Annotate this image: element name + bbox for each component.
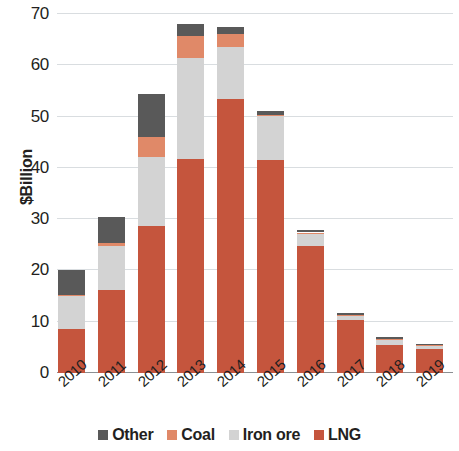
- chart-legend: OtherCoalIron oreLNG: [0, 427, 459, 443]
- y-axis-tick-label: 70: [3, 5, 49, 22]
- legend-swatch-lng: [314, 430, 324, 440]
- legend-item[interactable]: LNG: [314, 427, 361, 443]
- bar-segment[interactable]: [58, 296, 85, 330]
- legend-item[interactable]: Other: [98, 427, 153, 443]
- legend-label: Iron ore: [243, 427, 300, 443]
- y-axis-tick-label: 60: [3, 56, 49, 73]
- bar-segment[interactable]: [337, 313, 364, 315]
- bar-segment[interactable]: [337, 315, 364, 320]
- bar-segment[interactable]: [98, 246, 125, 290]
- bar-segment[interactable]: [376, 337, 403, 339]
- plot-area: 010203040506070: [57, 14, 453, 373]
- bar-segment[interactable]: [297, 234, 324, 246]
- stacked-bar-chart: $Billion 010203040506070 201020112012201…: [0, 0, 459, 451]
- bars-layer: [57, 14, 453, 373]
- bar-segment[interactable]: [217, 34, 244, 47]
- bar-segment[interactable]: [257, 111, 284, 115]
- bar-segment[interactable]: [98, 243, 125, 247]
- y-axis-tick-label: 40: [3, 158, 49, 175]
- legend-label: LNG: [328, 427, 361, 443]
- y-axis-tick-label: 30: [3, 210, 49, 227]
- x-axis-tick-labels: 2010201120122013201420152016201720182019: [57, 376, 453, 422]
- bar-segment[interactable]: [138, 94, 165, 137]
- legend-swatch-iron-ore: [229, 430, 239, 440]
- legend-label: Coal: [181, 427, 214, 443]
- bar-segment[interactable]: [217, 99, 244, 373]
- bar-segment[interactable]: [177, 58, 204, 159]
- bar-segment[interactable]: [217, 47, 244, 99]
- bar-segment[interactable]: [297, 230, 324, 232]
- legend-item[interactable]: Iron ore: [229, 427, 300, 443]
- y-axis-tick-label: 10: [3, 312, 49, 329]
- bar-segment[interactable]: [177, 24, 204, 35]
- y-axis-tick-label: 50: [3, 107, 49, 124]
- y-axis-tick-label: 20: [3, 261, 49, 278]
- bar-segment[interactable]: [138, 157, 165, 227]
- legend-swatch-coal: [167, 430, 177, 440]
- bar-segment[interactable]: [257, 115, 284, 117]
- bar-segment[interactable]: [337, 315, 364, 316]
- bar-segment[interactable]: [58, 270, 85, 294]
- bar-segment[interactable]: [177, 36, 204, 59]
- bar-segment[interactable]: [217, 27, 244, 34]
- bar-segment[interactable]: [98, 217, 125, 243]
- bar-segment[interactable]: [297, 233, 324, 234]
- bar-segment[interactable]: [58, 295, 85, 296]
- legend-swatch-other: [98, 430, 108, 440]
- bar-segment[interactable]: [138, 137, 165, 157]
- bar-segment[interactable]: [257, 116, 284, 160]
- legend-item[interactable]: Coal: [167, 427, 214, 443]
- y-axis-tick-label: 0: [3, 364, 49, 381]
- legend-label: Other: [112, 427, 153, 443]
